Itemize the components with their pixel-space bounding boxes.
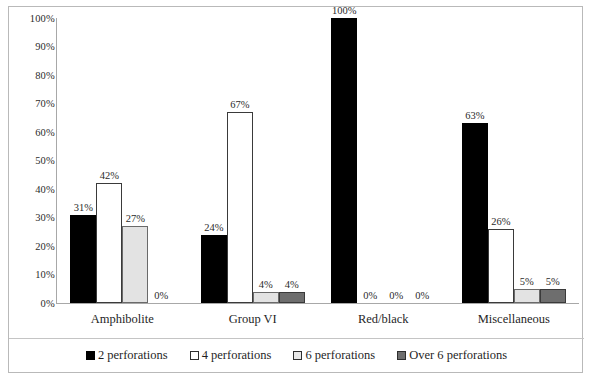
bar-value-label: 100% xyxy=(332,5,357,16)
bar-slot: 31% xyxy=(70,18,96,303)
legend-item[interactable]: 2 perforations xyxy=(86,348,168,362)
y-axis-tick-0: 0% xyxy=(9,298,55,309)
bar-slot: 27% xyxy=(122,18,148,303)
y-axis-tick-30: 30% xyxy=(9,212,55,223)
bar-group-bars: 31%42%27%0% xyxy=(70,18,174,303)
legend-separator xyxy=(9,338,584,339)
bar[interactable] xyxy=(331,18,357,303)
legend-label: Over 6 perforations xyxy=(409,348,507,362)
legend-label: 4 perforations xyxy=(202,348,272,362)
y-axis-tick-100: 100% xyxy=(9,13,55,24)
y-axis-tick-60: 60% xyxy=(9,127,55,138)
bar-value-label: 42% xyxy=(100,170,119,181)
bar-slot: 67% xyxy=(227,18,253,303)
chart-legend: 2 perforations4 perforations6 perforatio… xyxy=(9,343,584,367)
legend-swatch-icon xyxy=(86,351,95,360)
y-axis-tick-10: 10% xyxy=(9,269,55,280)
bar-group: 24%67%4%4% xyxy=(201,18,305,303)
bar-slot: 0% xyxy=(409,18,435,303)
y-axis-tick-50: 50% xyxy=(9,155,55,166)
bar-value-label: 4% xyxy=(259,279,273,290)
legend-item[interactable]: 6 perforations xyxy=(293,348,375,362)
legend-item[interactable]: Over 6 perforations xyxy=(397,348,507,362)
bar-group: 31%42%27%0% xyxy=(70,18,174,303)
bar[interactable] xyxy=(462,123,488,303)
bars-area: 31%42%27%0%24%67%4%4%100%0%0%0%63%26%5%5… xyxy=(57,18,579,303)
legend-label: 6 perforations xyxy=(305,348,375,362)
bar-group-bars: 24%67%4%4% xyxy=(201,18,305,303)
category-label: Miscellaneous xyxy=(449,312,580,327)
bar-value-label: 31% xyxy=(74,202,93,213)
y-axis-tick-70: 70% xyxy=(9,98,55,109)
bar-group-bars: 100%0%0%0% xyxy=(331,18,435,303)
bar-slot: 5% xyxy=(540,18,566,303)
bar-slot: 4% xyxy=(279,18,305,303)
category-label: Amphibolite xyxy=(57,312,188,327)
bar[interactable] xyxy=(540,289,566,303)
bar-value-label: 0% xyxy=(154,290,168,301)
bar-slot: 42% xyxy=(96,18,122,303)
bar-value-label: 0% xyxy=(415,290,429,301)
bar-value-label: 0% xyxy=(363,290,377,301)
bar-slot: 4% xyxy=(253,18,279,303)
x-axis-line xyxy=(56,303,579,304)
bar[interactable] xyxy=(227,112,253,303)
legend-label: 2 perforations xyxy=(98,348,168,362)
category-label: Red/black xyxy=(318,312,449,327)
bar[interactable] xyxy=(122,226,148,303)
y-axis-tick-90: 90% xyxy=(9,41,55,52)
x-axis-category-labels: AmphiboliteGroup VIRed/blackMiscellaneou… xyxy=(57,312,579,334)
y-axis-tick-20: 20% xyxy=(9,241,55,252)
bar-value-label: 24% xyxy=(204,222,223,233)
bar[interactable] xyxy=(201,235,227,303)
y-axis-tick-40: 40% xyxy=(9,184,55,195)
bar[interactable] xyxy=(514,289,540,303)
bar-slot: 24% xyxy=(201,18,227,303)
category-label: Group VI xyxy=(188,312,319,327)
bar[interactable] xyxy=(96,183,122,303)
legend-swatch-icon xyxy=(397,351,406,360)
bar-value-label: 27% xyxy=(126,213,145,224)
bar-slot: 26% xyxy=(488,18,514,303)
bar-slot: 5% xyxy=(514,18,540,303)
chart-figure: 0%10%20%30%40%50%60%70%80%90%100% 31%42%… xyxy=(8,6,583,373)
bar-slot: 0% xyxy=(148,18,174,303)
bar[interactable] xyxy=(253,292,279,303)
bar-slot: 63% xyxy=(462,18,488,303)
bar[interactable] xyxy=(70,215,96,303)
bar-value-label: 26% xyxy=(491,216,510,227)
legend-item[interactable]: 4 perforations xyxy=(190,348,272,362)
bar-group: 63%26%5%5% xyxy=(462,18,566,303)
legend-swatch-icon xyxy=(190,351,199,360)
plot-region: 0%10%20%30%40%50%60%70%80%90%100% 31%42%… xyxy=(9,7,584,334)
legend-swatch-icon xyxy=(293,351,302,360)
bar-group: 100%0%0%0% xyxy=(331,18,435,303)
bar-slot: 0% xyxy=(357,18,383,303)
bar[interactable] xyxy=(279,292,305,303)
bar-value-label: 0% xyxy=(389,290,403,301)
y-axis-tick-80: 80% xyxy=(9,70,55,81)
bar-value-label: 5% xyxy=(546,276,560,287)
bar-value-label: 67% xyxy=(230,99,249,110)
bar-value-label: 63% xyxy=(465,110,484,121)
bar-slot: 0% xyxy=(383,18,409,303)
bar[interactable] xyxy=(488,229,514,303)
bar-value-label: 5% xyxy=(520,276,534,287)
bar-value-label: 4% xyxy=(285,279,299,290)
bar-group-bars: 63%26%5%5% xyxy=(462,18,566,303)
y-axis-tick-labels: 0%10%20%30%40%50%60%70%80%90%100% xyxy=(9,7,55,334)
bar-slot: 100% xyxy=(331,18,357,303)
